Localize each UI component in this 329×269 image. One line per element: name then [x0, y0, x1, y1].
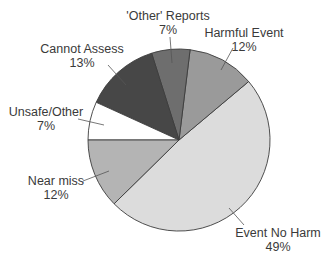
- pct-cannot-assess: 13%: [69, 56, 94, 70]
- label-event-no-harm: Event No Harm: [235, 226, 320, 240]
- pie: [88, 49, 270, 231]
- pct-harmful-event: 12%: [231, 40, 256, 54]
- label-cannot-assess: Cannot Assess: [40, 42, 123, 56]
- pct-near-miss: 12%: [43, 188, 68, 202]
- label-unsafe-other: Unsafe/Other: [9, 105, 83, 119]
- label-harmful-event: Harmful Event: [204, 26, 284, 40]
- label-other-reports: 'Other' Reports: [126, 9, 209, 23]
- pct-other-reports: 7%: [159, 23, 177, 37]
- pct-unsafe-other: 7%: [37, 119, 55, 133]
- pie-chart: 'Other' Reports 7% Harmful Event 12% Can…: [0, 0, 329, 269]
- label-near-miss: Near miss: [28, 174, 84, 188]
- pct-event-no-harm: 49%: [265, 240, 290, 254]
